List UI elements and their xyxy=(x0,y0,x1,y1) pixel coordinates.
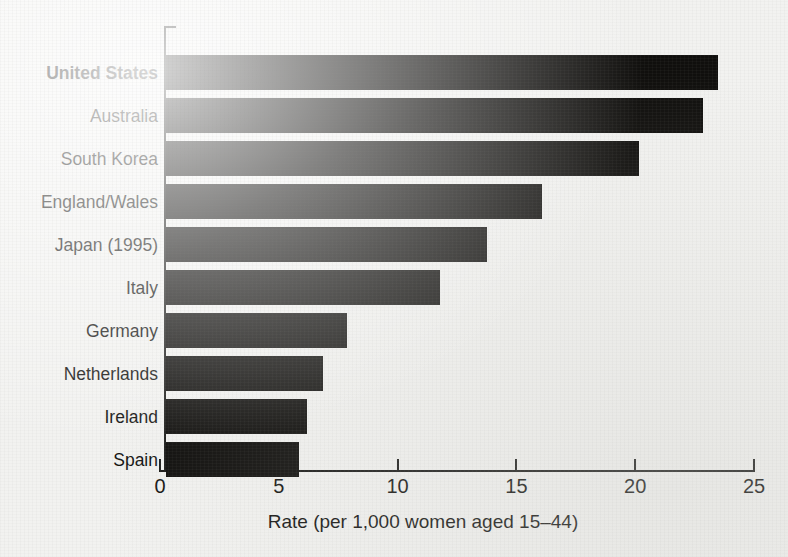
x-tick-25 xyxy=(753,459,755,472)
bar-south-korea xyxy=(166,141,639,176)
category-label-england-wales: England/Wales xyxy=(41,192,158,212)
bar-chart: 0510152025 United StatesAustraliaSouth K… xyxy=(0,0,788,557)
category-label-netherlands: Netherlands xyxy=(64,364,158,384)
x-axis-title: Rate (per 1,000 women aged 15–44) xyxy=(0,510,788,534)
category-label-germany: Germany xyxy=(86,321,158,341)
bar-japan-1995 xyxy=(166,227,487,262)
x-tick-label-0: 0 xyxy=(138,474,182,498)
bar-spain xyxy=(166,442,299,477)
y-axis-top-cap xyxy=(164,26,176,28)
x-tick-0 xyxy=(159,459,161,472)
x-tick-label-25: 25 xyxy=(732,474,776,498)
x-tick-20 xyxy=(634,459,636,471)
category-label-ireland: Ireland xyxy=(104,407,158,427)
category-label-japan-1995: Japan (1995) xyxy=(55,235,158,255)
category-label-italy: Italy xyxy=(126,278,158,298)
bar-germany xyxy=(166,313,347,348)
category-label-south-korea: South Korea xyxy=(61,149,158,169)
bar-ireland xyxy=(166,399,307,434)
category-label-australia: Australia xyxy=(90,106,158,126)
bar-australia xyxy=(166,98,703,133)
bar-england-wales xyxy=(166,184,542,219)
bar-united-states xyxy=(166,55,718,90)
x-tick-label-20: 20 xyxy=(613,474,657,498)
x-tick-15 xyxy=(515,459,517,471)
x-tick-label-5: 5 xyxy=(257,474,301,498)
bar-italy xyxy=(166,270,440,305)
category-label-united-states: United States xyxy=(46,63,158,83)
bar-netherlands xyxy=(166,356,323,391)
category-label-spain: Spain xyxy=(113,450,158,470)
x-tick-10 xyxy=(397,459,399,471)
x-tick-label-10: 10 xyxy=(376,474,420,498)
x-tick-label-15: 15 xyxy=(494,474,538,498)
